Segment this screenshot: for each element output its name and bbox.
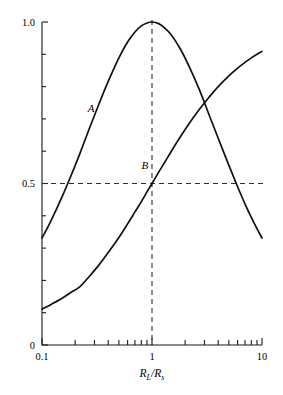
- x-tick-label-0.1: 0.1: [35, 351, 48, 362]
- x-axis-title-sub-s: s: [161, 373, 164, 382]
- curve-label-b: B: [141, 159, 148, 171]
- curve-label-a: A: [87, 102, 95, 114]
- x-tick-label-1: 1: [149, 351, 154, 362]
- x-axis-title-part-r2: R: [153, 367, 161, 379]
- y-tick-label-1.0: 1.0: [22, 17, 35, 28]
- x-tick-label-10: 10: [257, 351, 268, 362]
- chart-plot-svg: 00.51.0 0.1110 AB RL/Rs: [0, 0, 283, 395]
- y-tick-label-0.5: 0.5: [22, 178, 35, 189]
- x-axis-title-part-r1: R: [139, 367, 147, 379]
- y-tick-label-0: 0: [30, 340, 35, 351]
- chart-figure: 00.51.0 0.1110 AB RL/Rs: [0, 0, 283, 395]
